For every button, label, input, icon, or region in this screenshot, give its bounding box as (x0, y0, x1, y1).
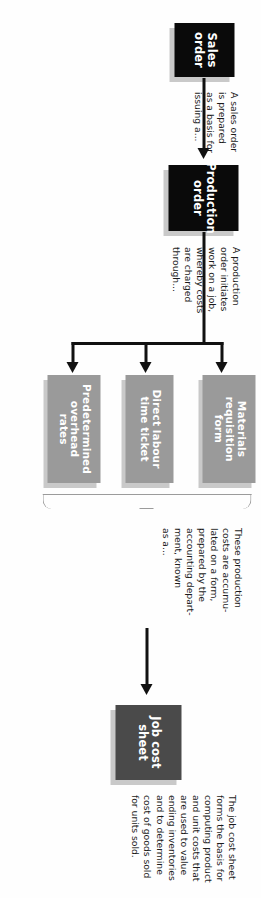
connector-production-stem (202, 232, 205, 344)
node-sales-order[interactable]: Sales order (174, 23, 234, 77)
note-job-cost-sheet: The job cost sheet forms the basis for c… (128, 795, 237, 898)
arrowhead-branch-overhead (67, 362, 79, 373)
connector-branch-materials (220, 342, 223, 364)
arrowhead-sales-to-production (198, 148, 210, 159)
flowchart-canvas: Sales order A sales order is prepared as… (0, 0, 261, 898)
node-production-order-label: Production order (190, 162, 216, 234)
node-production-order[interactable]: Production order (168, 165, 238, 231)
node-predetermined-overhead-rates-label: Predetermined overhead rates (56, 384, 91, 474)
arrowhead-to-job-cost-sheet (141, 684, 153, 695)
connector-branch-overhead (71, 342, 74, 364)
grouping-brace-stem (139, 508, 153, 509)
node-materials-requisition-form-label: Materials requisition form (211, 396, 246, 461)
connector-branch-labour (144, 342, 147, 364)
connector-to-job-cost-sheet (145, 628, 148, 686)
node-sales-order-label: Sales order (191, 32, 217, 68)
grouping-brace (43, 494, 251, 509)
arrowhead-branch-labour (140, 362, 152, 373)
arrowhead-branch-materials (216, 362, 228, 373)
node-job-cost-sheet[interactable]: Job cost sheet (115, 705, 181, 780)
node-predetermined-overhead-rates[interactable]: Predetermined overhead rates (47, 375, 100, 483)
connector-sales-to-production (202, 78, 205, 150)
note-job-cost-sheet-input: These production costs are accumu- lated… (158, 528, 243, 653)
node-direct-labour-time-ticket-label: Direct labour time ticket (137, 390, 161, 469)
node-job-cost-sheet-label: Job cost sheet (135, 716, 161, 768)
node-direct-labour-time-ticket[interactable]: Direct labour time ticket (125, 375, 173, 483)
node-materials-requisition-form[interactable]: Materials requisition form (202, 375, 255, 483)
